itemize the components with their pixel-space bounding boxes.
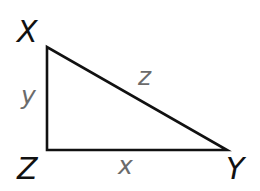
vertex-label-x: X: [17, 17, 38, 47]
vertex-label-y: Y: [226, 154, 244, 184]
triangle-xyz: [47, 47, 227, 150]
vertex-label-z: Z: [17, 154, 38, 184]
right-triangle-diagram: X Z Y y z x: [0, 0, 260, 191]
side-label-zy: x: [118, 153, 133, 178]
side-label-xz: y: [21, 83, 36, 108]
side-label-hypotenuse-xy: z: [138, 64, 151, 89]
